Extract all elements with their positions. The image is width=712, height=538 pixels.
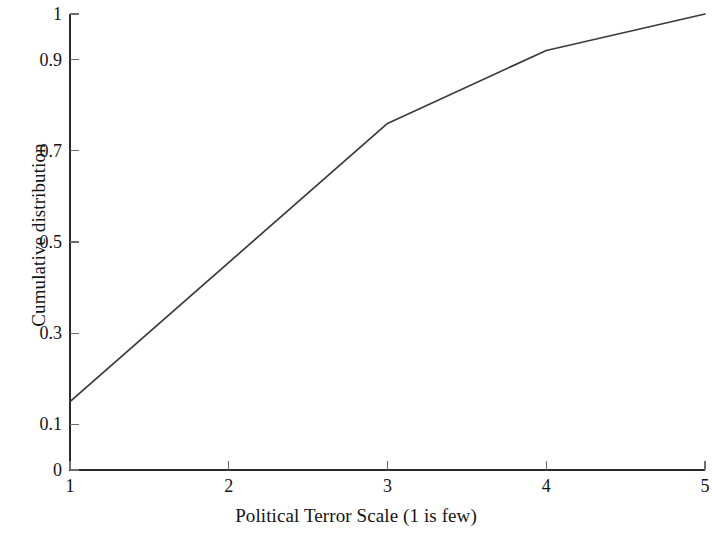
x-tick-label: 3 bbox=[368, 477, 408, 495]
cumulative-distribution-line bbox=[70, 14, 705, 402]
chart-container: Cumulative distribution 00.10.30.50.70.9… bbox=[0, 0, 712, 538]
x-axis-label: Political Terror Scale (1 is few) bbox=[0, 505, 712, 527]
axis-lines bbox=[70, 14, 705, 470]
x-tick-label: 5 bbox=[685, 477, 712, 495]
plot-area bbox=[0, 0, 712, 538]
x-tick-label: 4 bbox=[526, 477, 566, 495]
x-tick-label: 1 bbox=[50, 477, 90, 495]
axes-group bbox=[70, 14, 705, 470]
series-group bbox=[70, 14, 705, 402]
x-tick-label: 2 bbox=[209, 477, 249, 495]
x-axis-tick-labels: 12345 bbox=[0, 477, 712, 501]
tick-marks bbox=[70, 14, 705, 470]
